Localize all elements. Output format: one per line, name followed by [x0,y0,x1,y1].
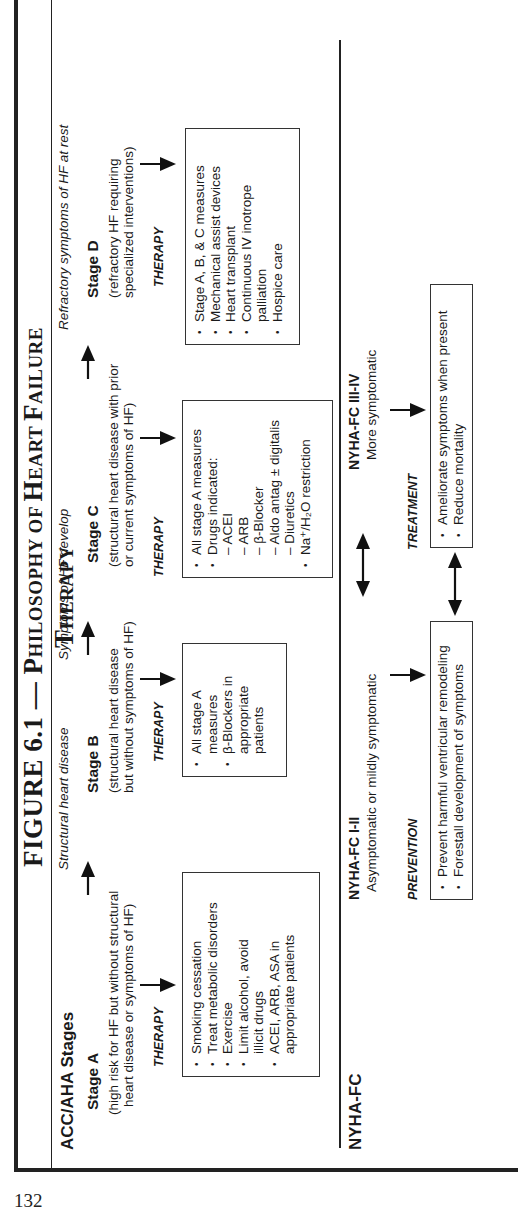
double-arrow-icon [447,552,463,616]
transition-label-structural: Structural heart disease [56,727,71,870]
stage-b-therapy-label: THERAPY [152,702,166,762]
therapy-item: Na⁺/H₂O restriction [298,407,314,569]
treatment-label: TREATMENT [406,474,420,550]
therapy-item: Hospice care [270,135,286,336]
drug-item: – Aldo antag ± digitalis [267,407,283,569]
double-arrow-icon [355,533,371,597]
nyha-class-1-2-desc: Asymptomatic or mildly symptomatic [364,674,379,892]
stage-a-therapy-box: Smoking cessation Treat metabolic disord… [182,872,320,1077]
therapy-item: All stage A [189,650,205,768]
stage-a-desc-line1: (high risk for HF but without structural [106,891,121,1115]
prevention-goal: Prevent harmful ventricular remodeling [435,628,451,891]
therapy-item-continued: patients [251,650,267,768]
arrow-down-icon [140,430,176,446]
drug-item: – ARB [236,407,252,569]
stage-d-desc-line2: specialized interventions) [121,146,136,298]
nyha-class-1-2-title: NYHA-FC I-II [346,817,362,900]
therapy-item: ACEI, ARB, ASA in [267,879,283,1068]
arrow-right-icon [80,861,96,895]
prevention-goal: Forestall development of symptoms [451,628,467,891]
arrow-down-icon [140,156,176,172]
therapy-item: Drugs indicated: [205,407,221,569]
stage-c-therapy-label: THERAPY [152,517,166,577]
therapy-item: β-Blockers in [220,650,236,768]
therapy-item-continued: measures [205,650,221,768]
stage-c-desc-line1: (structural heart disease with prior [106,364,121,567]
therapy-item: Stage A, B, & C measures [192,135,208,336]
stage-d-therapy-box: Stage A, B, & C measures Mechanical assi… [185,128,300,345]
stage-d-title: Stage D [84,240,102,298]
stage-a-therapy-label: THERAPY [152,1007,166,1067]
therapy-item-continued: appropriate [236,650,252,768]
therapy-item: All stage A measures [189,407,205,569]
therapy-item: Smoking cessation [189,879,205,1068]
stage-a-desc-line2: heart disease or symptoms of HF) [121,904,136,1107]
prevention-label: PREVENTION [406,819,420,900]
arrow-down-icon [390,667,426,683]
stage-d-desc-line1: (refractory HF requiring [106,158,121,298]
treatment-box: Ameliorate symptoms when present Reduce … [430,284,473,548]
stage-a-title: Stage A [84,1053,102,1110]
stage-b-title: Stage B [84,735,102,793]
arrow-right-icon [80,621,96,655]
acc-aha-heading: ACC/AHA Stages [58,1012,78,1150]
therapy-item: Treat metabolic disorders [205,879,221,1068]
drug-item: – ACEI [220,407,236,569]
treatment-goal: Reduce mortality [451,291,467,539]
stage-c-desc-line2: or current symptoms of HF) [121,403,136,567]
stage-c-therapy-box: All stage A measures Drugs indicated: – … [182,400,333,578]
nyha-class-3-4-desc: More symptomatic [364,350,379,460]
nyha-separator [339,40,341,1148]
nyha-class-3-4-title: NYHA-FC III-IV [346,374,362,470]
stage-b-desc-line1: (structural heart disease [106,648,121,793]
drug-item: – β-Blocker [251,407,267,569]
therapy-item: Exercise [220,879,236,1068]
therapy-item: Continuous IV inotrope [239,135,255,336]
arrow-down-icon [140,671,176,687]
arrow-down-icon [390,402,426,418]
treatment-goal: Ameliorate symptoms when present [435,291,451,539]
drug-item: – Diuretics [282,407,298,569]
therapy-item: Mechanical assist devices [208,135,224,336]
arrow-right-icon [80,345,96,379]
stage-c-title: Stage C [84,505,102,563]
nyha-heading: NYHA-FC [346,1074,366,1151]
therapy-item-continued: palliation [254,135,270,336]
stage-d-therapy-label: THERAPY [152,227,166,287]
transition-label-symptoms: Symptoms of HF develop [56,509,71,660]
arrow-down-icon [140,977,176,993]
stage-b-desc-line2: but without symptoms of HF) [121,621,136,793]
transition-label-refractory: Refractory symptoms of HF at rest [56,125,71,330]
therapy-item: Limit alcohol, avoid [236,879,252,1068]
therapy-item-continued: illicit drugs [251,879,267,1068]
stage-b-therapy-box: All stage A measures β-Blockers in appro… [182,643,287,777]
therapy-item-continued: appropriate patients [282,879,298,1068]
therapy-item: Heart transplant [223,135,239,336]
prevention-box: Prevent harmful ventricular remodeling F… [430,621,473,900]
